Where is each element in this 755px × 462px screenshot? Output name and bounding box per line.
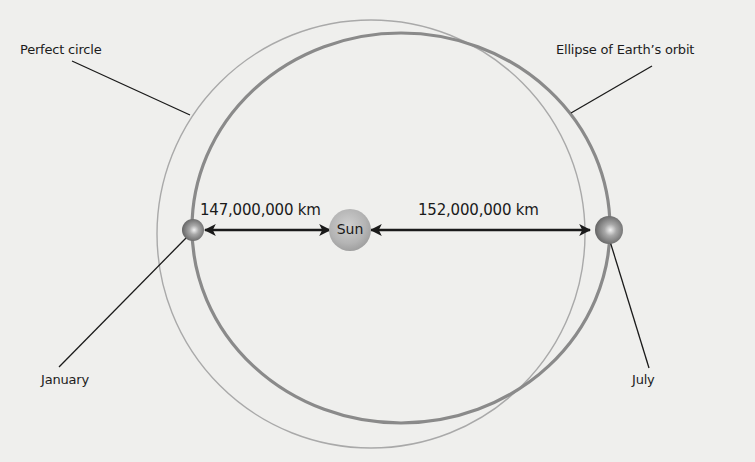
ellipse-leader-line <box>571 66 652 113</box>
earth-orbit-ellipse <box>192 33 610 423</box>
earth-january-icon <box>182 219 204 241</box>
perihelion-distance-label: 147,000,000 km <box>200 201 321 219</box>
july-leader-line <box>609 238 649 368</box>
perfect-circle-label: Perfect circle <box>20 42 101 57</box>
aphelion-distance-label: 152,000,000 km <box>418 201 539 219</box>
earth-july-icon <box>595 216 623 244</box>
january-label: January <box>41 372 89 387</box>
ellipse-of-earth-orbit-label: Ellipse of Earth’s orbit <box>556 42 694 57</box>
perfect-circle <box>157 20 585 448</box>
diagram-canvas <box>0 0 755 462</box>
sun-label: Sun <box>330 221 370 237</box>
perfect-circle-leader-line <box>72 61 190 115</box>
july-label: July <box>632 372 655 387</box>
orbit-diagram: Perfect circle Ellipse of Earth’s orbit … <box>0 0 755 462</box>
